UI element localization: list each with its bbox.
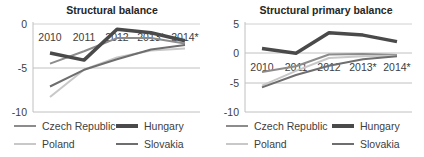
legend-label: Slovakia xyxy=(144,138,184,150)
legend-swatch xyxy=(14,125,36,127)
legend-swatch xyxy=(116,124,138,128)
y-tick-label: 0 xyxy=(21,18,27,30)
legend-label: Poland xyxy=(254,138,287,150)
y-tick-label: -5 xyxy=(230,77,239,89)
y-tick-label: 0 xyxy=(233,47,239,59)
legend-label: Hungary xyxy=(144,120,184,132)
series-line-hungary xyxy=(262,33,397,54)
legend-swatch xyxy=(14,143,36,145)
legend-item-slovakia: Slovakia xyxy=(332,135,400,153)
x-tick-label: 2013* xyxy=(349,61,376,73)
legend-item-czech-republic: Czech Republic xyxy=(14,117,116,135)
y-tick-label: 5 xyxy=(233,18,239,30)
legend-swatch xyxy=(116,143,138,145)
x-tick-label: 2010 xyxy=(38,31,62,43)
chart-title: Structural primary balance xyxy=(259,4,392,16)
legend-swatch xyxy=(226,125,248,127)
legend: Czech Republic Hungary Poland Slovakia xyxy=(226,117,424,155)
chart-structural-balance: Structural balance 0 -5 -10 2010 2011 20… xyxy=(0,0,212,157)
legend-label: Poland xyxy=(42,138,75,150)
legend-label: Slovakia xyxy=(360,138,400,150)
legend: Czech Republic Hungary Poland Slovakia xyxy=(14,117,214,155)
legend-item-hungary: Hungary xyxy=(116,117,184,135)
chart-title: Structural balance xyxy=(66,4,158,16)
legend-label: Czech Republic xyxy=(42,120,116,132)
x-tick-label: 2014* xyxy=(383,61,410,73)
legend-item-poland: Poland xyxy=(226,135,287,153)
y-tick-label: -5 xyxy=(18,62,27,74)
legend-label: Hungary xyxy=(360,120,400,132)
legend-item-poland: Poland xyxy=(14,135,75,153)
legend-item-slovakia: Slovakia xyxy=(116,135,184,153)
legend-label: Czech Republic xyxy=(254,120,328,132)
legend-item-czech-republic: Czech Republic xyxy=(226,117,328,135)
legend-swatch xyxy=(332,143,354,145)
legend-item-hungary: Hungary xyxy=(332,117,400,135)
x-tick-label: 2011 xyxy=(73,31,96,43)
legend-swatch xyxy=(332,124,354,128)
legend-swatch xyxy=(226,143,248,145)
chart-structural-primary-balance: Structural primary balance 5 0 -5 -10 20… xyxy=(212,0,424,157)
